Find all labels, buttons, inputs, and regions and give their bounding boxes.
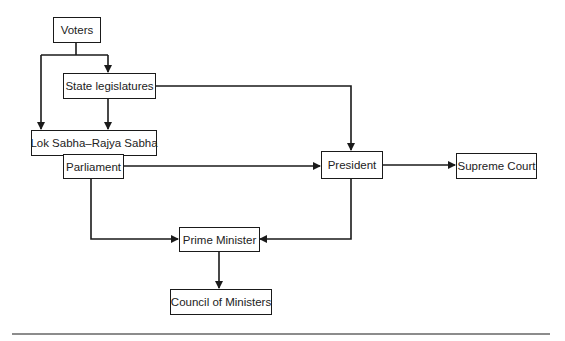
node-label: Lok Sabha–Rajya Sabha [30, 137, 157, 149]
node-label: Supreme Court [458, 160, 536, 172]
node-lok-sabha-rajya-sabha: Lok Sabha–Rajya Sabha [31, 130, 157, 156]
bottom-rule-divider [12, 333, 550, 335]
node-supreme-court: Supreme Court [456, 153, 537, 179]
node-label: State legislatures [65, 80, 153, 92]
node-label: Parliament [66, 161, 121, 173]
node-label: Prime Minister [183, 234, 256, 246]
node-parliament: Parliament [63, 154, 124, 179]
node-label: Council of Ministers [171, 296, 271, 308]
edge-president-to-prime-minister [260, 178, 351, 239]
node-voters: Voters [53, 17, 101, 43]
node-state-legislatures: State legislatures [63, 73, 156, 99]
edge-parliament-to-prime-minister [91, 178, 178, 239]
node-label: Voters [61, 24, 94, 36]
node-council-of-ministers: Council of Ministers [170, 289, 272, 315]
node-label: President [328, 159, 377, 171]
diagram-canvas: Voters State legislatures Lok Sabha–Rajy… [0, 0, 565, 341]
node-president: President [321, 151, 383, 179]
node-prime-minister: Prime Minister [179, 227, 260, 252]
edge-state-legislatures-to-president [155, 86, 351, 150]
